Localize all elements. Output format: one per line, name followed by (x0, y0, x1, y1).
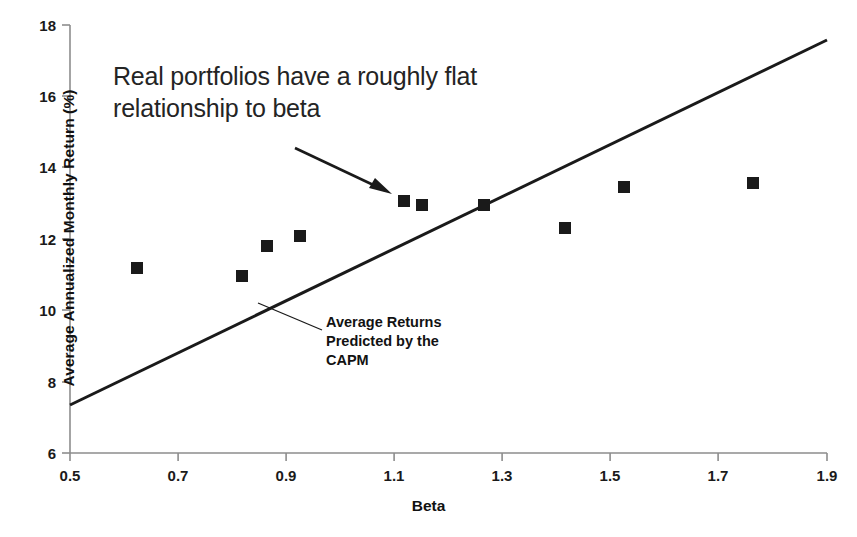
scatter-series-real-portfolios (131, 177, 759, 282)
data-point (478, 199, 490, 211)
x-axis-ticks (70, 453, 827, 461)
callout-arrow-icon (295, 148, 392, 194)
data-point (618, 181, 630, 193)
x-tick-label: 1.3 (479, 468, 525, 483)
x-axis-title: Beta (0, 497, 857, 515)
data-point (131, 262, 143, 274)
data-point (559, 222, 571, 234)
y-tick-label: 6 (22, 446, 56, 461)
data-point (416, 199, 428, 211)
y-tick-label: 10 (22, 303, 56, 318)
data-point (398, 195, 410, 207)
data-point (236, 270, 248, 282)
x-tick-label: 1.5 (587, 468, 633, 483)
data-point (294, 230, 306, 242)
y-tick-label: 18 (22, 18, 56, 33)
x-tick-label: 1.9 (804, 468, 850, 483)
data-point (261, 240, 273, 252)
capm-callout-line-3: CAPM (326, 351, 516, 370)
capm-callout-line-1: Average Returns (326, 313, 516, 332)
flat-callout-line-2: relationship to beta (113, 92, 533, 124)
capm-leader-line (258, 303, 322, 330)
y-tick-label: 14 (22, 160, 56, 175)
y-tick-label: 12 (22, 232, 56, 247)
x-tick-label: 0.9 (263, 468, 309, 483)
x-tick-label: 1.1 (371, 468, 417, 483)
capm-line-callout: Average Returns Predicted by the CAPM (326, 313, 516, 370)
y-tick-label: 16 (22, 89, 56, 104)
flat-callout-line-1: Real portfolios have a roughly flat (113, 60, 533, 92)
x-tick-label: 1.7 (695, 468, 741, 483)
scatter-chart-figure: 18 16 14 12 10 8 6 0.5 0.7 0.9 1.1 1.3 1… (0, 0, 857, 537)
x-tick-label: 0.5 (47, 468, 93, 483)
x-tick-label: 0.7 (155, 468, 201, 483)
y-axis-title: Average Annualized Monthly Return (%) (60, 28, 78, 448)
y-tick-label: 8 (22, 375, 56, 390)
data-point (747, 177, 759, 189)
flat-relationship-callout: Real portfolios have a roughly flat rela… (113, 60, 533, 124)
capm-callout-line-2: Predicted by the (326, 332, 516, 351)
